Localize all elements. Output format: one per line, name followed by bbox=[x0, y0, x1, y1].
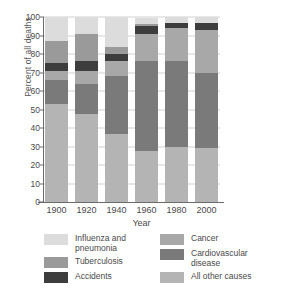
bar-segment[interactable] bbox=[195, 30, 218, 73]
legend-item[interactable]: Tuberculosis bbox=[44, 256, 159, 268]
bar-segment[interactable] bbox=[195, 148, 218, 202]
chart-legend: Influenza and pneumoniaTuberculosisAccid… bbox=[44, 233, 274, 299]
legend-item[interactable]: Influenza and pneumonia bbox=[44, 233, 159, 253]
legend-label: Accidents bbox=[75, 271, 112, 281]
bar-segment[interactable] bbox=[75, 71, 98, 84]
bar-segment[interactable] bbox=[135, 24, 158, 26]
legend-column-left: Influenza and pneumoniaTuberculosisAccid… bbox=[44, 233, 159, 286]
bar-segment[interactable] bbox=[105, 61, 128, 76]
bar-segment[interactable] bbox=[45, 41, 68, 63]
bar-segment[interactable] bbox=[135, 26, 158, 33]
y-tick-label: 50 bbox=[31, 105, 40, 114]
bar-segment[interactable] bbox=[165, 23, 188, 28]
gridline bbox=[44, 72, 220, 73]
bar-segment[interactable] bbox=[45, 71, 68, 80]
bar-segment[interactable] bbox=[135, 61, 158, 151]
bar-segment[interactable] bbox=[75, 34, 98, 62]
gridline bbox=[44, 183, 220, 184]
legend-swatch bbox=[160, 234, 184, 245]
legend-item[interactable]: All other causes bbox=[160, 271, 275, 283]
y-tick-label: 20 bbox=[31, 161, 40, 170]
gridline bbox=[44, 35, 220, 36]
gridline bbox=[44, 17, 220, 18]
y-tick-label: 90 bbox=[31, 31, 40, 40]
gridline bbox=[44, 109, 220, 110]
bar-1960[interactable] bbox=[135, 17, 158, 202]
legend-column-right: CancerCardiovascular diseaseAll other ca… bbox=[160, 233, 275, 286]
bar-segment[interactable] bbox=[45, 63, 68, 70]
legend-label: All other causes bbox=[191, 271, 251, 281]
gridline bbox=[44, 91, 220, 92]
legend-swatch bbox=[44, 257, 68, 268]
bar-1920[interactable] bbox=[75, 17, 98, 202]
y-tick-label: 60 bbox=[31, 87, 40, 96]
bar-1900[interactable] bbox=[45, 17, 68, 202]
bar-segment[interactable] bbox=[45, 104, 68, 202]
legend-label: Influenza and pneumonia bbox=[75, 233, 126, 253]
y-tick-label: 80 bbox=[31, 50, 40, 59]
gridline bbox=[44, 128, 220, 129]
bar-segment[interactable] bbox=[165, 28, 188, 61]
x-axis-title: Year bbox=[0, 218, 283, 228]
bar-segment[interactable] bbox=[195, 17, 218, 23]
y-tick-label: 100 bbox=[26, 13, 40, 22]
bar-1940[interactable] bbox=[105, 17, 128, 202]
bar-segment[interactable] bbox=[105, 134, 128, 202]
bar-segment[interactable] bbox=[105, 47, 128, 54]
legend-swatch bbox=[44, 234, 68, 245]
y-tick-label: 70 bbox=[31, 68, 40, 77]
gridline bbox=[44, 146, 220, 147]
legend-swatch bbox=[44, 272, 68, 283]
y-tick-label: 40 bbox=[31, 124, 40, 133]
legend-swatch bbox=[160, 272, 184, 283]
bar-segment[interactable] bbox=[75, 61, 98, 70]
x-axis-line bbox=[38, 202, 224, 203]
legend-label: Cardiovascular disease bbox=[191, 248, 248, 268]
bar-segment[interactable] bbox=[135, 34, 158, 62]
legend-item[interactable]: Accidents bbox=[44, 271, 159, 283]
bar-segment[interactable] bbox=[135, 18, 158, 24]
bar-segment[interactable] bbox=[75, 17, 98, 34]
legend-label: Cancer bbox=[191, 233, 218, 243]
y-tick-label: 10 bbox=[31, 179, 40, 188]
bar-segment[interactable] bbox=[165, 147, 188, 202]
y-tick-label: 30 bbox=[31, 142, 40, 151]
bar-segment[interactable] bbox=[195, 23, 218, 29]
plot-area: 1009080706050403020100190019201940196019… bbox=[44, 17, 220, 202]
bar-segment[interactable] bbox=[105, 54, 128, 61]
stacked-bar-chart: Percent of all deaths 100908070605040302… bbox=[0, 0, 283, 302]
bar-2000[interactable] bbox=[195, 17, 218, 202]
legend-label: Tuberculosis bbox=[75, 256, 123, 266]
gridline bbox=[44, 165, 220, 166]
bar-segment[interactable] bbox=[165, 17, 188, 23]
bar-segment[interactable] bbox=[195, 73, 218, 148]
bar-segment[interactable] bbox=[165, 61, 188, 147]
bar-segment[interactable] bbox=[45, 80, 68, 104]
bar-segment[interactable] bbox=[105, 17, 128, 47]
gridline bbox=[44, 54, 220, 55]
bar-segment[interactable] bbox=[75, 84, 98, 115]
legend-item[interactable]: Cancer bbox=[160, 233, 275, 245]
bar-segment[interactable] bbox=[75, 114, 98, 202]
x-tick-label-2000: 2000 bbox=[187, 205, 227, 215]
bar-1980[interactable] bbox=[165, 17, 188, 202]
legend-swatch bbox=[160, 249, 184, 260]
y-tick-mark bbox=[40, 202, 44, 203]
bar-segment[interactable] bbox=[45, 17, 68, 41]
legend-item[interactable]: Cardiovascular disease bbox=[160, 248, 275, 268]
bar-segment[interactable] bbox=[105, 76, 128, 134]
bar-segment[interactable] bbox=[135, 151, 158, 202]
